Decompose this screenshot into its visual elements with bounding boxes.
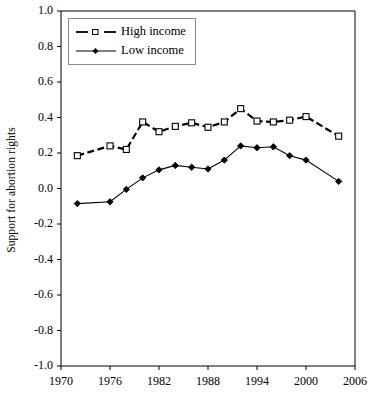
y-tick-label: -0.4 bbox=[21, 252, 53, 267]
legend-label-low-income: Low income bbox=[118, 43, 184, 58]
data-point bbox=[205, 166, 211, 172]
x-tick-label: 1970 bbox=[40, 374, 82, 389]
data-point bbox=[172, 162, 178, 168]
data-point bbox=[140, 119, 146, 125]
y-tick-label: 0.2 bbox=[21, 145, 53, 160]
x-tick-label: 1988 bbox=[187, 374, 229, 389]
data-point bbox=[286, 152, 292, 158]
x-tick-label: 1994 bbox=[236, 374, 278, 389]
y-tick-label: -0.8 bbox=[21, 323, 53, 338]
y-tick-label: -1.0 bbox=[21, 358, 53, 373]
legend: High income Low income bbox=[68, 18, 196, 65]
y-tick-label: 0.4 bbox=[21, 110, 53, 125]
data-point bbox=[303, 157, 309, 163]
legend-item-low-income: Low income bbox=[74, 41, 190, 60]
y-tick-label: -0.2 bbox=[21, 216, 53, 231]
data-point bbox=[172, 123, 178, 129]
legend-key-low-income bbox=[74, 44, 118, 58]
data-point bbox=[254, 118, 260, 124]
y-tick-label: 0.8 bbox=[21, 39, 53, 54]
data-point bbox=[74, 200, 80, 206]
data-point bbox=[189, 120, 195, 126]
data-point bbox=[123, 146, 129, 152]
data-point bbox=[287, 117, 293, 123]
figure-caption bbox=[0, 399, 376, 409]
data-point bbox=[270, 119, 276, 125]
data-point bbox=[188, 164, 194, 170]
data-point bbox=[156, 167, 162, 173]
legend-key-high-income bbox=[74, 25, 118, 39]
y-tick-label: -0.6 bbox=[21, 287, 53, 302]
chart-figure: Support for abortion rights 1.00.80.60.4… bbox=[0, 0, 376, 409]
series-low-income bbox=[74, 143, 342, 207]
data-series-layer bbox=[74, 106, 342, 207]
y-tick-label: 1.0 bbox=[21, 3, 53, 18]
series-high-income bbox=[74, 106, 341, 159]
data-point bbox=[238, 106, 244, 112]
x-tick-label: 1976 bbox=[89, 374, 131, 389]
data-point bbox=[303, 114, 309, 120]
data-point bbox=[254, 144, 260, 150]
legend-item-high-income: High income bbox=[74, 22, 190, 41]
y-tick-label: 0.0 bbox=[21, 181, 53, 196]
data-point bbox=[335, 178, 341, 184]
data-point bbox=[156, 129, 162, 135]
data-point bbox=[107, 143, 113, 149]
x-tick-label: 1982 bbox=[138, 374, 180, 389]
data-point bbox=[270, 144, 276, 150]
y-tick-label: 0.6 bbox=[21, 74, 53, 89]
data-point bbox=[336, 133, 342, 139]
x-tick-label: 2006 bbox=[334, 374, 376, 389]
data-point bbox=[74, 153, 80, 159]
data-point bbox=[205, 124, 211, 130]
legend-label-high-income: High income bbox=[118, 24, 186, 39]
x-tick-label: 2000 bbox=[285, 374, 327, 389]
data-point bbox=[221, 119, 227, 125]
